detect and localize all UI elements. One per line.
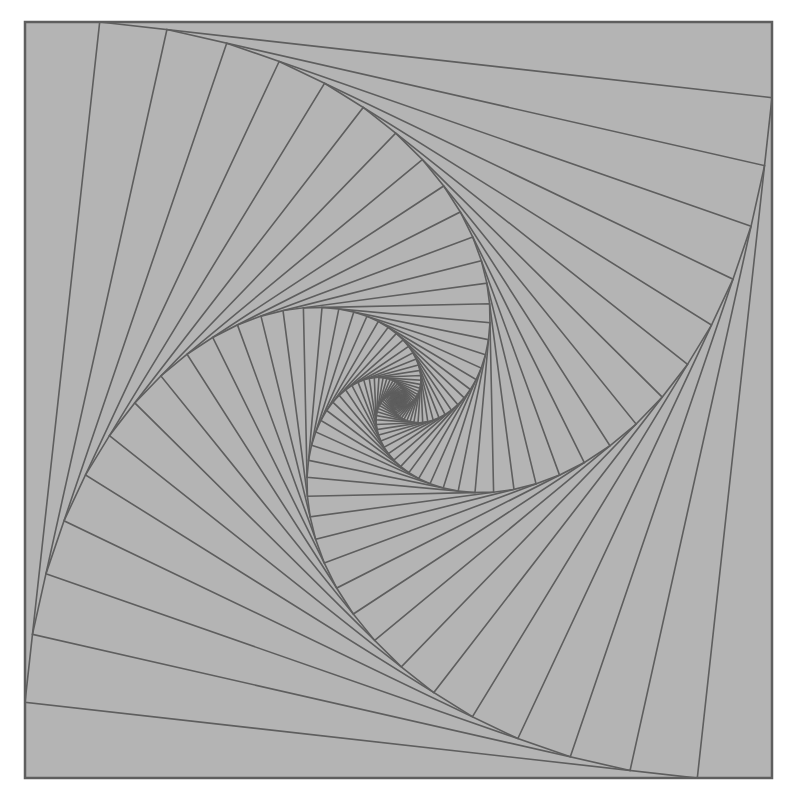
- whirl-figure: [0, 0, 798, 810]
